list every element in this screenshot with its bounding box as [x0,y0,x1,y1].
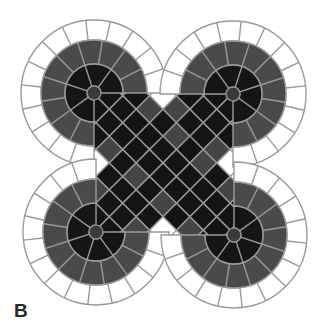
panel-label: B [14,301,28,320]
mosaic-knot [0,0,314,326]
